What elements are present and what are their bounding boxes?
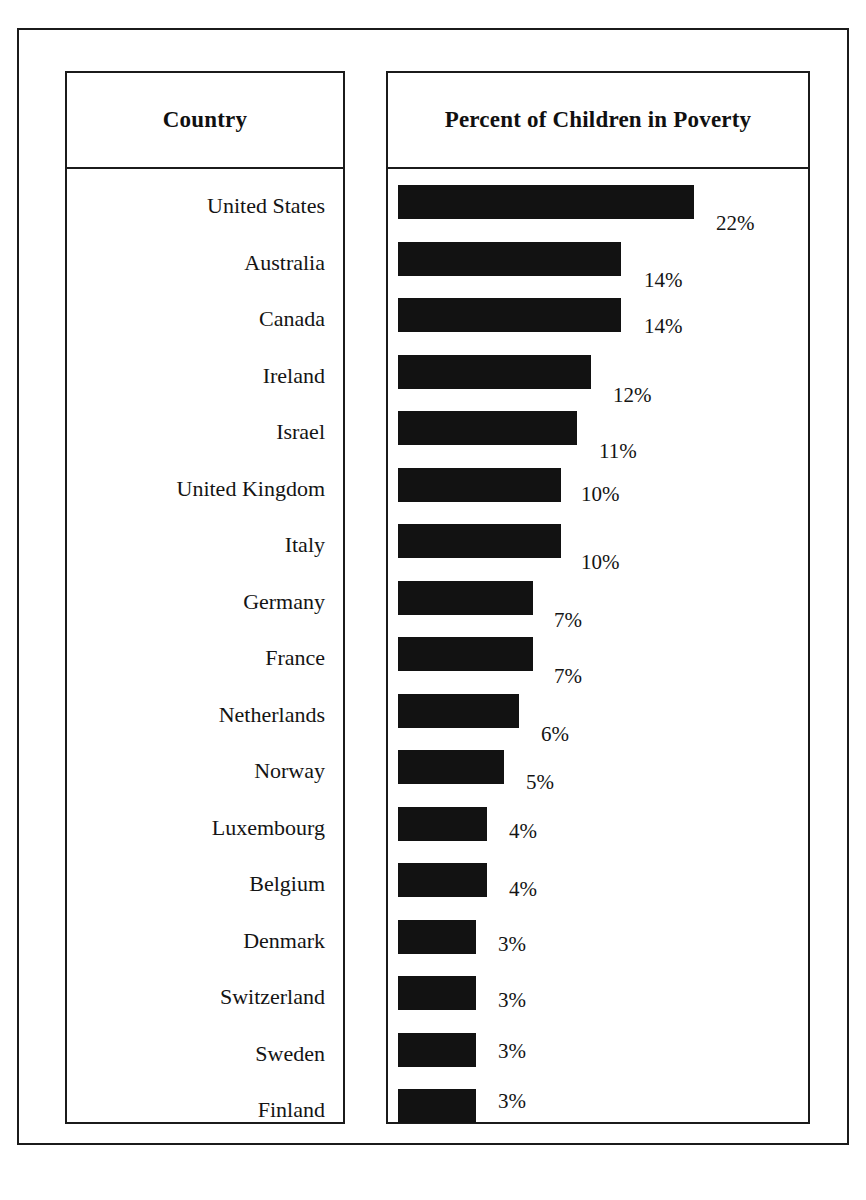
bar-value-label: 3% [498,1091,526,1112]
country-label: Ireland [263,365,325,387]
country-label: Denmark [243,930,325,952]
bar-value-label: 22% [716,213,755,234]
chart-panel: Percent of Children in Poverty 22%14%14%… [386,71,810,1124]
bar [398,298,621,332]
bar [398,468,561,502]
country-label: Netherlands [219,704,325,726]
bar-value-label: 3% [498,990,526,1011]
bar [398,355,591,389]
bar [398,863,487,897]
percent-column-header: Percent of Children in Poverty [388,73,808,169]
country-label: Italy [285,534,325,556]
country-label: Switzerland [220,986,325,1008]
bar [398,411,577,445]
country-label: Australia [244,252,325,274]
bar [398,920,476,954]
country-label: Canada [259,308,325,330]
bar-value-label: 14% [644,316,683,337]
country-label: Norway [254,760,325,782]
bar-value-label: 4% [509,879,537,900]
bar [398,750,504,784]
bar-value-label: 7% [554,610,582,631]
country-label: United States [207,195,325,217]
bar [398,185,694,219]
country-header-label: Country [163,107,247,133]
bar [398,1089,476,1123]
country-label: Finland [258,1099,325,1121]
bar [398,637,533,671]
bar [398,807,487,841]
bar-value-label: 5% [526,772,554,793]
country-label: Israel [276,421,325,443]
bar [398,581,533,615]
bar-value-label: 3% [498,1041,526,1062]
bar-value-label: 10% [581,552,620,573]
bar-value-label: 7% [554,666,582,687]
bar [398,976,476,1010]
clipped-top-text [38,0,538,6]
country-column-header: Country [67,73,343,169]
bar-value-label: 6% [541,724,569,745]
country-label: Germany [243,591,325,613]
outer-frame: Country United StatesAustraliaCanadaIrel… [17,28,849,1145]
percent-header-label: Percent of Children in Poverty [445,107,752,133]
bar-value-label: 3% [498,934,526,955]
bar-value-label: 4% [509,821,537,842]
country-panel-body: United StatesAustraliaCanadaIrelandIsrae… [67,169,343,1122]
bar [398,1033,476,1067]
bar [398,694,519,728]
bar-value-label: 12% [613,385,652,406]
bar-chart-plot-area: 22%14%14%12%11%10%10%7%7%6%5%4%4%3%3%3%3… [388,169,808,1122]
country-label: France [265,647,325,669]
country-label: United Kingdom [177,478,326,500]
country-label: Luxembourg [212,817,325,839]
bar [398,524,561,558]
bar-value-label: 14% [644,270,683,291]
country-panel: Country United StatesAustraliaCanadaIrel… [65,71,345,1124]
chart-panel-body: 22%14%14%12%11%10%10%7%7%6%5%4%4%3%3%3%3… [388,169,808,1122]
bar-value-label: 10% [581,484,620,505]
country-label: Belgium [249,873,325,895]
bar-value-label: 11% [599,441,637,462]
bar [398,242,621,276]
country-label: Sweden [255,1043,325,1065]
country-label-list: United StatesAustraliaCanadaIrelandIsrae… [67,169,343,1122]
